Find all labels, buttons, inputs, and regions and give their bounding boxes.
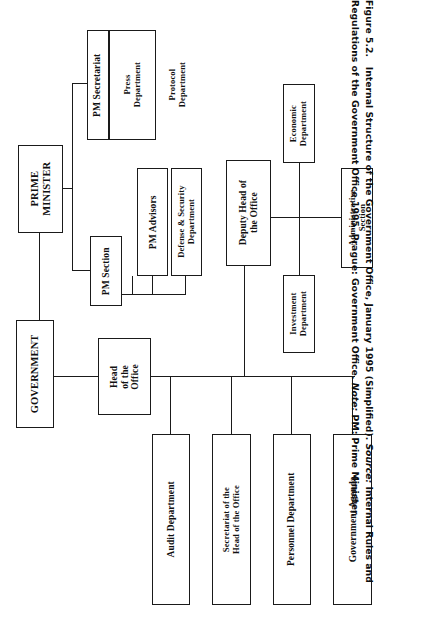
figure-number: Figure 5.2. bbox=[364, 0, 375, 57]
node-label: InvestmentDepartment bbox=[289, 291, 308, 336]
node-label: Deputy Head ofthe Office bbox=[238, 180, 259, 245]
node-pm-section[interactable]: PM Section bbox=[90, 236, 122, 306]
node-label: Secretariat of theHead of the Office bbox=[222, 485, 241, 554]
node-audit-department[interactable]: Audit Department bbox=[152, 434, 190, 605]
edge-to-defense-dept bbox=[185, 276, 186, 295]
node-label-press: PressDepartment bbox=[123, 62, 142, 107]
caption-line-1: Figure 5.2. Internal Structure of the Go… bbox=[362, 0, 376, 637]
figure-page: PM Secretariat PressDepartment ProtocolD… bbox=[0, 0, 438, 637]
edge-deputy-to-investment bbox=[299, 217, 300, 275]
node-personnel-department[interactable]: Personnel Department bbox=[273, 434, 311, 605]
edge-deputy-head-to-bus bbox=[244, 266, 245, 377]
node-label: Personnel Department bbox=[287, 473, 298, 567]
node-defense-security-department[interactable]: Defense & SecurityDepartment bbox=[171, 168, 202, 276]
node-label-protocol: ProtocolDepartment bbox=[168, 62, 187, 107]
edge-to-audit-dept bbox=[170, 376, 171, 434]
node-pm-advisors[interactable]: PM Advisors bbox=[137, 168, 168, 276]
source-text-part-2: Regulations of the Government Office 199… bbox=[350, 0, 361, 379]
figure-title: Internal Structure of the Government Off… bbox=[364, 67, 375, 441]
node-label: EconomicDepartment bbox=[289, 101, 308, 146]
edge-to-secretariat-head bbox=[231, 376, 232, 434]
node-label: Defense & SecurityDepartment bbox=[177, 186, 196, 258]
node-label: Headof theOffice bbox=[109, 364, 141, 389]
edge-deputy-to-economic bbox=[299, 163, 300, 218]
node-prime-minister[interactable]: PRIMEMINISTER bbox=[18, 145, 63, 233]
node-label: PM Secretariat bbox=[93, 53, 104, 116]
node-secretariat-of-the-head-of-the-office[interactable]: Secretariat of theHead of the Office bbox=[212, 434, 251, 605]
node-label: Audit Department bbox=[166, 481, 177, 557]
edge-government-head-office bbox=[54, 376, 98, 377]
edge-pm-bus bbox=[72, 83, 73, 271]
node-label: PRIMEMINISTER bbox=[29, 162, 53, 216]
node-label: PM Section bbox=[101, 247, 112, 295]
node-label: GOVERNMENT bbox=[29, 335, 41, 414]
node-head-of-the-office[interactable]: Headof theOffice bbox=[98, 338, 151, 415]
node-economic-department[interactable]: EconomicDepartment bbox=[283, 84, 315, 163]
source-text-part-1: Internal Rules and bbox=[364, 487, 375, 583]
caption-line-2: Regulations of the Government Office 199… bbox=[347, 0, 361, 637]
note-text: PM: Prime Minister. bbox=[350, 415, 361, 517]
node-pm-secretariat-subbox: PressDepartment ProtocolDepartment bbox=[108, 30, 156, 140]
node-investment-department[interactable]: InvestmentDepartment bbox=[283, 275, 315, 353]
edge-to-personnel-dept bbox=[291, 376, 292, 434]
edge-pm-to-secretariat bbox=[72, 83, 88, 84]
figure-caption: Figure 5.2. Internal Structure of the Go… bbox=[318, 0, 376, 637]
edge-pm-to-pm-section bbox=[72, 270, 91, 271]
node-pm-secretariat[interactable]: PM Secretariat bbox=[87, 30, 109, 140]
edge-government-prime-minister bbox=[39, 232, 40, 321]
edge-to-pm-advisors bbox=[152, 276, 153, 295]
node-label: PM Advisors bbox=[147, 195, 158, 249]
edge-pm-section-bus bbox=[132, 276, 133, 295]
edge-pm-section-children-bus bbox=[132, 294, 186, 295]
node-government[interactable]: GOVERNMENT bbox=[16, 320, 54, 428]
note-label: Note: bbox=[350, 383, 361, 412]
node-deputy-head-of-the-office[interactable]: Deputy Head ofthe Office bbox=[226, 160, 271, 266]
source-label: Source: bbox=[364, 443, 375, 483]
